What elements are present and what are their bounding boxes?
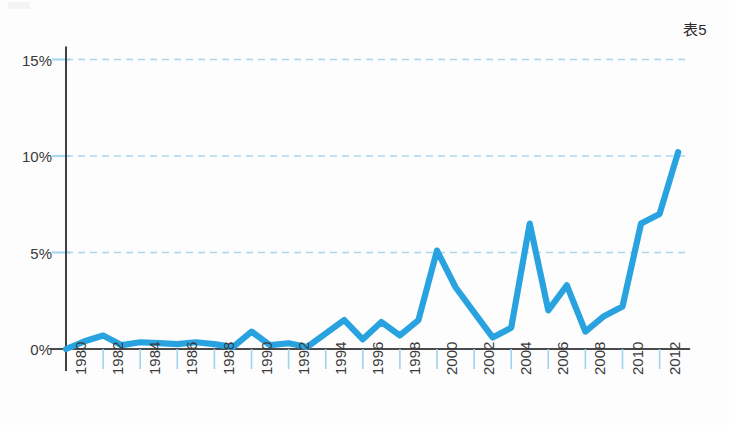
xtick-label-2012: 2012 — [666, 342, 683, 375]
xtick-label-1984: 1984 — [146, 342, 163, 375]
data-series-line — [66, 152, 678, 349]
xtick-label-1998: 1998 — [406, 342, 423, 375]
xtick-label-2000: 2000 — [443, 342, 460, 375]
xtick-label-2006: 2006 — [554, 342, 571, 375]
line-chart-plot: 0%5%10%15%198019821984198619881990199219… — [0, 0, 729, 425]
xtick-label-1990: 1990 — [258, 342, 275, 375]
xtick-label-1980: 1980 — [72, 342, 89, 375]
ytick-label-0: 0% — [4, 341, 52, 358]
xtick-label-2002: 2002 — [480, 342, 497, 375]
xtick-label-2008: 2008 — [591, 342, 608, 375]
ytick-label-5: 5% — [4, 244, 52, 261]
xtick-label-1992: 1992 — [295, 342, 312, 375]
xtick-label-1986: 1986 — [183, 342, 200, 375]
xtick-label-1996: 1996 — [369, 342, 386, 375]
ytick-label-15: 15% — [4, 51, 52, 68]
xtick-label-1994: 1994 — [332, 342, 349, 375]
ytick-label-10: 10% — [4, 148, 52, 165]
xtick-label-2010: 2010 — [629, 342, 646, 375]
chart-figure: 表5 0%5%10%15%198019821984198619881990199… — [0, 0, 729, 425]
xtick-label-1982: 1982 — [109, 342, 126, 375]
xtick-label-2004: 2004 — [517, 342, 534, 375]
xtick-label-1988: 1988 — [220, 342, 237, 375]
